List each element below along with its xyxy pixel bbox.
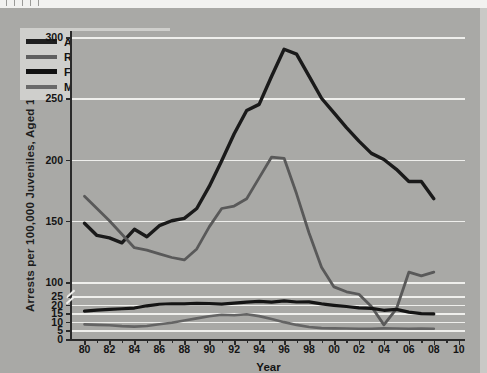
figure-panel: Arrests per 100,000 Juveniles, Aged 10–1…: [0, 8, 480, 373]
x-tick-label: 08: [428, 343, 440, 355]
x-tick-minor: [446, 339, 448, 343]
x-tick-label: 80: [79, 343, 91, 355]
y-tick-label: 300: [45, 31, 63, 43]
x-tick-minor: [297, 339, 299, 343]
x-tick-minor: [172, 339, 174, 343]
x-tick-label: 98: [303, 343, 315, 355]
x-tick-label: 84: [129, 343, 141, 355]
y-tick-label: 100: [45, 276, 63, 288]
x-tick-label: 96: [278, 343, 290, 355]
series-line-forcible-rape: [84, 301, 433, 314]
x-tick-minor: [371, 339, 373, 343]
chart-page: Arrests per 100,000 Juveniles, Aged 10–1…: [0, 0, 487, 373]
x-tick-minor: [222, 339, 224, 343]
x-tick-label: 82: [104, 343, 116, 355]
x-tick-minor: [247, 339, 249, 343]
x-tick-minor: [197, 339, 199, 343]
strip-tick: [14, 0, 15, 6]
legend-swatch-forcible-rape: [26, 69, 57, 74]
strip-tick: [38, 0, 39, 6]
plot-area: 0510152025100150200250300 80828486889092…: [70, 31, 465, 341]
y-tick-label: 25: [51, 290, 63, 302]
series-lines: [72, 31, 465, 339]
x-tick-label: 04: [378, 343, 390, 355]
y-tick: [66, 339, 72, 341]
x-tick-label: 02: [353, 343, 365, 355]
x-tick-minor: [122, 339, 124, 343]
x-tick-minor: [396, 339, 398, 343]
x-tick-minor: [97, 339, 99, 343]
y-tick-label: 250: [45, 92, 63, 104]
strip-tick: [30, 0, 31, 6]
series-line-aggravated-assault: [84, 49, 433, 243]
x-tick-label: 92: [228, 343, 240, 355]
x-tick-minor: [346, 339, 348, 343]
x-tick-minor: [147, 339, 149, 343]
y-tick-label: 150: [45, 215, 63, 227]
strip-tick: [22, 0, 23, 6]
x-tick-label: 10: [453, 343, 465, 355]
right-edge-border: [480, 8, 487, 373]
x-tick-label: 90: [203, 343, 215, 355]
x-tick-label: 00: [328, 343, 340, 355]
y-tick-label: 200: [45, 154, 63, 166]
legend-swatch-murder: [26, 85, 57, 89]
x-tick-label: 88: [178, 343, 190, 355]
x-tick-minor: [421, 339, 423, 343]
x-tick-label: 86: [153, 343, 165, 355]
legend-swatch-robbery: [26, 55, 57, 59]
x-axis-title: Year: [72, 361, 465, 373]
x-tick-label: 94: [253, 343, 265, 355]
strip-tick: [6, 0, 7, 6]
x-tick-label: 06: [403, 343, 415, 355]
x-tick-minor: [272, 339, 274, 343]
x-tick-minor: [322, 339, 324, 343]
series-line-robbery: [84, 157, 433, 325]
top-white-strip: [0, 0, 487, 8]
